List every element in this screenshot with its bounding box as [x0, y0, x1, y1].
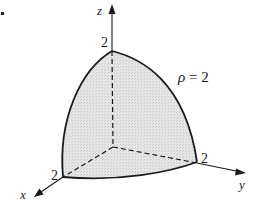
- z-tick-label: 2: [101, 35, 108, 50]
- x-axis-arrow-icon: [34, 189, 44, 198]
- z-axis-label: z: [96, 3, 102, 18]
- surface-label: ρ = 2: [177, 69, 209, 85]
- sphere-octant-diagram: z 2 x 2 y 2 ρ = 2: [0, 0, 253, 223]
- rho-value: = 2: [189, 69, 209, 85]
- z-axis-arrow-icon: [109, 4, 116, 14]
- marker-dot: [1, 12, 4, 15]
- y-tick-label: 2: [201, 151, 208, 166]
- y-axis-arrow-icon: [235, 169, 246, 176]
- y-axis-label: y: [237, 177, 245, 192]
- x-tick-label: 2: [51, 168, 58, 183]
- rho-symbol: ρ: [177, 69, 185, 85]
- x-axis-label: x: [19, 187, 26, 202]
